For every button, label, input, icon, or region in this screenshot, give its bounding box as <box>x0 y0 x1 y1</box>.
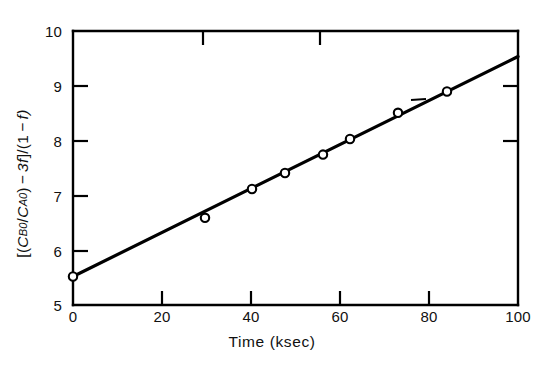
x-axis-title: Time(ksec) <box>0 333 544 351</box>
y-title-f-close: f) <box>14 109 32 119</box>
y-title-3f: 3f <box>14 158 32 172</box>
y-title-cb-sub: B0 <box>17 222 29 236</box>
y-title-minus: − <box>14 175 32 184</box>
x-tick-label-0: 0 <box>69 308 78 325</box>
y-title-cb: C <box>14 236 32 248</box>
x-axis-title-main: Time <box>228 333 264 350</box>
y-title-ca-sub: A0 <box>17 193 29 207</box>
y-title-minus-2: − <box>14 122 32 131</box>
data-point <box>394 109 402 117</box>
y-title-ca: C <box>14 206 32 218</box>
x-tick-label-60: 60 <box>331 308 348 325</box>
right-axis-ticks <box>503 86 518 141</box>
data-point <box>319 150 327 158</box>
data-point <box>346 135 354 143</box>
data-point <box>248 185 256 193</box>
dash-annotation <box>411 99 426 100</box>
figure-container: 10 9 8 7 6 5 0 20 40 60 80 100 Time(ksec… <box>0 0 544 367</box>
x-axis-ticks <box>162 291 429 305</box>
plot-canvas <box>0 0 544 367</box>
data-point <box>281 169 289 177</box>
top-axis-ticks <box>203 31 320 45</box>
x-tick-label-20: 20 <box>153 308 170 325</box>
data-point <box>443 87 451 95</box>
x-tick-label-100: 100 <box>505 308 531 325</box>
y-title-close-paren: ) <box>14 187 32 192</box>
data-point <box>69 272 77 280</box>
y-title-open: [( <box>14 248 32 258</box>
y-title-slash: / <box>14 218 32 223</box>
y-axis-ticks <box>73 86 88 251</box>
data-point <box>201 214 209 222</box>
x-tick-label-40: 40 <box>242 308 259 325</box>
x-axis-title-units: (ksec) <box>270 333 316 350</box>
y-title-close-bracket: ]/(1 <box>14 135 32 159</box>
y-axis-title: [(CB0/CA0)−3f]/(1−f) <box>6 0 40 367</box>
x-tick-label-80: 80 <box>420 308 437 325</box>
